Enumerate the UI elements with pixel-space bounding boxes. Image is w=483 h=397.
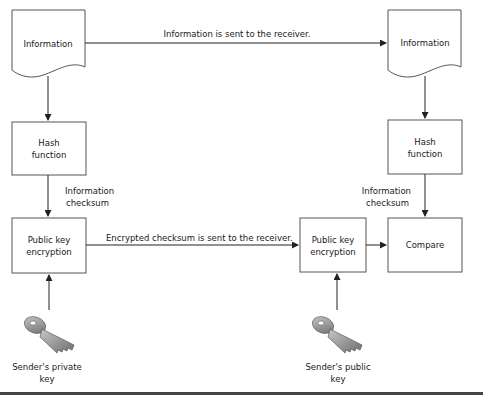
hash-right-box (388, 120, 462, 174)
info-right-label: Information (400, 38, 449, 48)
pk-left-label-1: Public key (28, 235, 71, 245)
bottom-rule (0, 392, 483, 395)
private-key-label-1: Sender's private (12, 362, 82, 372)
info-left-label: Information (23, 39, 72, 49)
hash-right-label-2: function (408, 149, 443, 159)
private-key-label-2: key (40, 374, 55, 384)
info-sent-label: Information is sent to the receiver. (164, 29, 311, 39)
hash-left-box (12, 122, 86, 175)
pk-right-label-1: Public key (312, 235, 355, 245)
public-key-icon (310, 314, 362, 353)
pk-right-label-2: encryption (310, 247, 356, 257)
checksum-right-label-1: Information (362, 186, 411, 196)
public-key-label-2: key (331, 374, 346, 384)
checksum-left-label-2: checksum (66, 198, 109, 208)
diagram-canvas: Information Information Information is s… (0, 0, 483, 397)
checksum-left-label-1: Information (65, 186, 114, 196)
pk-right-box (300, 218, 366, 272)
hash-left-label-1: Hash (38, 138, 59, 148)
checksum-right-label-2: checksum (366, 198, 409, 208)
private-key-icon (22, 314, 74, 353)
public-key-label-1: Sender's public (305, 362, 371, 372)
pk-left-box (12, 218, 86, 273)
pk-left-label-2: encryption (26, 247, 72, 257)
hash-left-label-2: function (32, 150, 67, 160)
compare-label: Compare (406, 240, 445, 250)
hash-right-label-1: Hash (414, 137, 435, 147)
checksum-sent-label: Encrypted checksum is sent to the receiv… (106, 233, 293, 243)
